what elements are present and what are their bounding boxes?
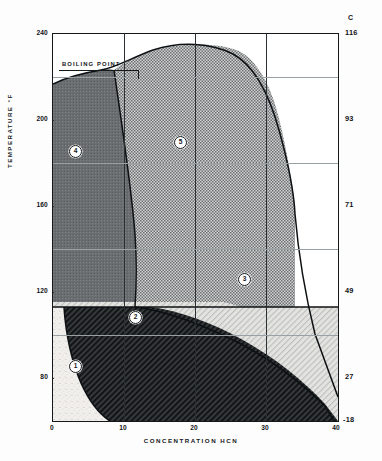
boiling-point-leader-tick — [138, 70, 139, 79]
x-tick-30: 30 — [253, 424, 277, 431]
y-axis-title: TEMPERATURE °F — [6, 48, 13, 168]
region-badge-1: 1 — [69, 360, 82, 373]
c-tick-49: 49 — [345, 286, 371, 295]
gridline-y-100 — [53, 335, 338, 336]
x-tick-20: 20 — [182, 424, 206, 431]
boiling-point-leader-line — [59, 70, 139, 71]
gridline-y-160 — [53, 206, 54, 207]
x-tick-0: 0 — [40, 424, 64, 431]
c-tick-27: 27 — [345, 372, 371, 381]
celsius-axis-title: C — [348, 14, 354, 21]
x-tick-40: 40 — [324, 424, 348, 431]
gridline-x-10 — [124, 34, 125, 421]
region-badge-2: 2 — [129, 311, 142, 324]
y-tick-120: 120 — [22, 287, 48, 294]
boiling-point-annotation: BOILING POINT — [62, 61, 120, 67]
y-tick-240: 240 — [22, 29, 48, 36]
gridline-y-120 — [53, 292, 54, 293]
c-tick-116: 116 — [345, 28, 371, 37]
chart-figure: C TEMPERATURE °F CONCENTRATION HCN — [0, 0, 382, 461]
region-badge-3: 3 — [238, 273, 251, 286]
gridline-x-30 — [266, 34, 267, 421]
c-tick-93: 93 — [345, 114, 371, 123]
gridline-y-220 — [53, 77, 338, 78]
gridline-y-180 — [53, 163, 338, 164]
y-tick-80: 80 — [22, 373, 48, 380]
y-tick-200: 200 — [22, 115, 48, 122]
y-tick-160: 160 — [22, 201, 48, 208]
x-axis-title: CONCENTRATION HCN — [0, 437, 382, 444]
region-5-area — [114, 44, 295, 307]
plot-area: 1 2 3 4 5 — [52, 33, 339, 422]
c-tick-minus18: -18 — [343, 415, 369, 424]
region-badge-5: 5 — [174, 136, 187, 149]
x-tick-10: 10 — [111, 424, 135, 431]
region-badge-4: 4 — [69, 145, 82, 158]
gridline-y-80 — [53, 378, 54, 379]
c-tick-71: 71 — [345, 200, 371, 209]
gridline-y-200 — [53, 120, 54, 121]
gridline-y-140 — [53, 249, 338, 250]
gridline-x-20 — [195, 34, 196, 421]
